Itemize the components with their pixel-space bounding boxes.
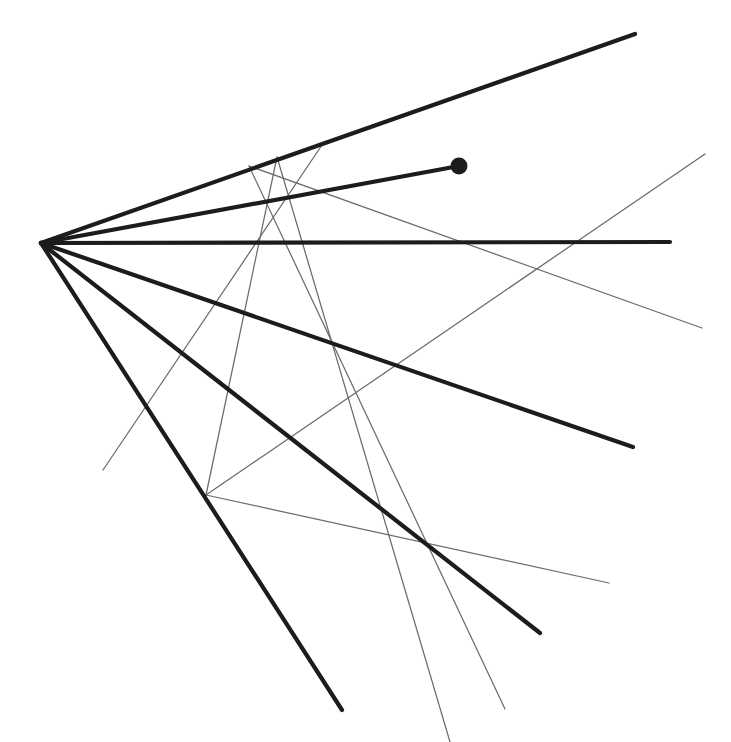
figure-background	[0, 0, 731, 742]
figure-area	[0, 13, 731, 742]
line-figure	[0, 0, 731, 742]
figure-line-ray-horizontal	[41, 242, 670, 243]
marker-group	[451, 158, 468, 175]
figure-marker-dot-0	[451, 158, 468, 175]
figure-page: schematic looks like this:	[0, 0, 731, 742]
